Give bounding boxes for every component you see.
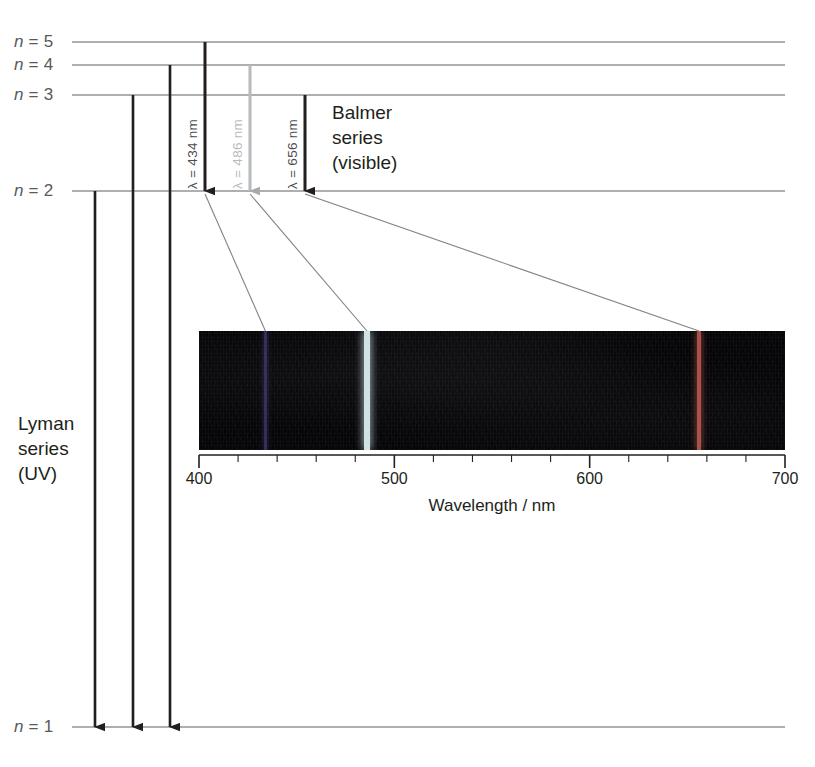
level-label-symbol: n [14,717,24,736]
emission-spectrum-panel [199,331,785,450]
red-line-656 [697,331,701,450]
lyman-caption-line-1: Lyman [18,411,74,436]
energy-level-label-n5: n = 5 [14,32,53,52]
level-label-symbol: n [14,181,24,200]
axis-tick-label-700: 700 [772,470,799,488]
wavelength-axis [199,455,785,468]
leader-line-434nm [205,194,265,331]
balmer-series-caption: Balmer series (visible) [332,100,397,175]
lyman-caption-line-2: series [18,436,74,461]
hydrogen-spectrum-figure: n = 5n = 4n = 3n = 2n = 1 λ = 434 nmλ = … [0,0,815,767]
spectrum-leader-lines [205,194,699,331]
cyan-line-486 [364,331,370,450]
balmer-caption-line-2: series [332,125,397,150]
axis-tick-label-600: 600 [576,470,603,488]
level-label-value: = 4 [24,55,54,74]
energy-level-label-n1: n = 1 [14,717,53,737]
wavelength-label-434nm: λ = 434 nm [185,119,200,189]
leader-line-656nm [305,194,699,331]
lyman-caption-line-3: (UV) [18,461,74,486]
level-label-symbol: n [14,32,24,51]
level-label-symbol: n [14,55,24,74]
balmer-caption-line-3: (visible) [332,150,397,175]
wavelength-label-656nm: λ = 656 nm [285,119,300,189]
leader-line-486nm [250,194,367,331]
energy-level-label-n4: n = 4 [14,55,53,75]
wavelength-label-486nm: λ = 486 nm [230,119,245,189]
axis-tick-label-500: 500 [381,470,408,488]
axis-tick-label-400: 400 [186,470,213,488]
lyman-transition-arrows [95,65,170,727]
balmer-caption-line-1: Balmer [332,100,397,125]
level-label-value: = 3 [24,85,54,104]
level-label-value: = 1 [24,717,54,736]
level-label-symbol: n [14,85,24,104]
violet-line-434 [264,331,267,450]
lyman-series-caption: Lyman series (UV) [18,411,74,486]
axis-title: Wavelength / nm [429,496,556,516]
level-label-value: = 2 [24,181,54,200]
energy-level-label-n2: n = 2 [14,181,53,201]
energy-level-label-n3: n = 3 [14,85,53,105]
level-label-value: = 5 [24,32,54,51]
